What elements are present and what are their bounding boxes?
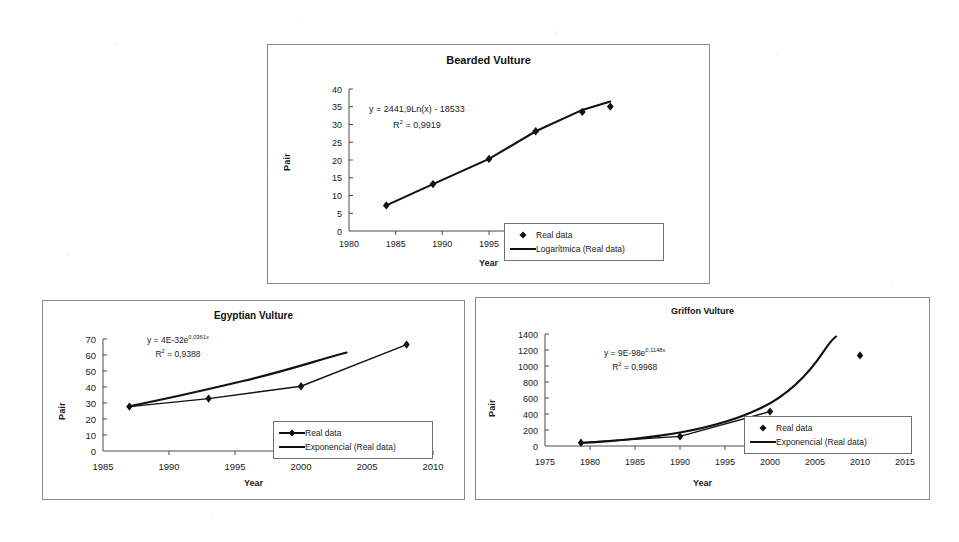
svg-text:1995: 1995 (224, 461, 245, 472)
svg-text:20: 20 (332, 156, 342, 166)
svg-text:2010: 2010 (422, 461, 443, 472)
svg-text:2005: 2005 (805, 457, 825, 467)
svg-text:800: 800 (523, 378, 538, 388)
legend-item-real-data: Real data (279, 426, 425, 440)
svg-text:5: 5 (337, 209, 342, 219)
svg-text:25: 25 (332, 138, 342, 148)
svg-text:0: 0 (533, 442, 538, 452)
svg-text:2015: 2015 (895, 457, 915, 467)
svg-text:35: 35 (332, 102, 342, 112)
svg-text:2000: 2000 (290, 461, 311, 472)
svg-text:1990: 1990 (670, 457, 690, 467)
svg-text:400: 400 (523, 410, 538, 420)
equation-bearded: y = 2441,9Ln(x) - 18533 R2 = 0,9919 (369, 103, 465, 133)
legend-griffon: Real data Exponencial (Real data) (744, 416, 912, 454)
svg-text:1990: 1990 (432, 239, 452, 249)
svg-text:10: 10 (85, 430, 96, 441)
legend-marker-icon (750, 422, 776, 434)
svg-text:1400: 1400 (518, 330, 538, 340)
svg-text:50: 50 (85, 366, 96, 377)
r-squared-value-egyptian: = 0,9388 (165, 349, 201, 359)
svg-text:1985: 1985 (386, 239, 406, 249)
chart-panel-bearded-vulture: Bearded Vulture Pair Year 40 35 30 25 20… (267, 44, 710, 284)
svg-text:1995: 1995 (715, 457, 735, 467)
svg-text:1990: 1990 (158, 461, 179, 472)
legend-item-trendline: Logarítmica (Real data) (510, 242, 656, 256)
svg-text:30: 30 (332, 120, 342, 130)
svg-text:1200: 1200 (518, 346, 538, 356)
svg-text:0: 0 (91, 446, 96, 457)
legend-marker-icon (510, 229, 536, 241)
equation-text-bearded: y = 2441,9Ln(x) - 18533 (369, 104, 465, 114)
chart-title-griffon-vulture: Griffon Vulture (476, 306, 929, 316)
chart-panel-griffon-vulture: Griffon Vulture Pair Year 1400 1200 1000… (475, 297, 930, 500)
legend-bearded: Real data Logarítmica (Real data) (504, 223, 664, 261)
svg-text:15: 15 (332, 173, 342, 183)
legend-item-trendline: Exponencial (Real data) (750, 435, 904, 449)
svg-text:0: 0 (337, 227, 342, 237)
legend-line-icon (279, 441, 305, 453)
svg-text:60: 60 (85, 350, 96, 361)
legend-label-trendline: Logarítmica (Real data) (536, 244, 625, 254)
svg-text:1975: 1975 (535, 457, 555, 467)
legend-item-real-data: Real data (510, 228, 656, 242)
equation-egyptian: y = 4E-32e0,0361x R2 = 0,9388 (147, 333, 209, 361)
svg-text:2010: 2010 (850, 457, 870, 467)
legend-item-real-data: Real data (750, 421, 904, 435)
r-squared-value-griffon: = 0,9968 (622, 362, 658, 372)
svg-text:20: 20 (85, 414, 96, 425)
svg-text:70: 70 (85, 334, 96, 345)
equation-base-egyptian: y = 4E-32e (147, 335, 188, 345)
legend-egyptian: Real data Exponencial (Real data) (273, 421, 433, 459)
svg-text:10: 10 (332, 191, 342, 201)
svg-text:1995: 1995 (479, 239, 499, 249)
legend-label-trendline: Exponencial (Real data) (776, 437, 867, 447)
equation-exponent-griffon: 0,1148x (645, 347, 665, 353)
svg-text:1000: 1000 (518, 362, 538, 372)
svg-text:600: 600 (523, 394, 538, 404)
equation-base-griffon: y = 9E-98e (604, 348, 645, 358)
chart-title-egyptian-vulture: Egyptian Vulture (43, 310, 464, 321)
r-squared-value-bearded: = 0,9919 (403, 120, 441, 130)
equation-exponent-egyptian: 0,0361x (188, 334, 209, 340)
equation-griffon: y = 9E-98e0,1148x R2 = 0,9968 (604, 346, 665, 374)
svg-text:1980: 1980 (580, 457, 600, 467)
legend-marker-line-icon (279, 427, 305, 439)
chart-panel-egyptian-vulture: Egyptian Vulture Pair Year 70 60 50 40 3… (42, 300, 465, 500)
legend-line-icon (750, 436, 776, 448)
legend-item-trendline: Exponencial (Real data) (279, 440, 425, 454)
x-axis-label-griffon: Year (476, 478, 929, 488)
svg-text:1980: 1980 (339, 239, 359, 249)
chart-title-bearded-vulture: Bearded Vulture (268, 54, 709, 66)
plot-area-griffon: 1400 1200 1000 800 600 400 200 0 (476, 320, 931, 478)
svg-text:2005: 2005 (356, 461, 377, 472)
svg-text:2000: 2000 (760, 457, 780, 467)
svg-text:40: 40 (85, 382, 96, 393)
legend-label-real-data: Real data (305, 428, 341, 438)
x-axis-label-egyptian: Year (43, 478, 464, 488)
legend-label-real-data: Real data (536, 230, 572, 240)
legend-line-icon (510, 243, 536, 255)
legend-label-trendline: Exponencial (Real data) (305, 442, 396, 452)
svg-text:40: 40 (332, 85, 342, 95)
svg-text:1985: 1985 (625, 457, 645, 467)
svg-text:1985: 1985 (92, 461, 113, 472)
plot-svg-griffon: 1400 1200 1000 800 600 400 200 0 (476, 320, 931, 478)
svg-text:200: 200 (523, 426, 538, 436)
legend-label-real-data: Real data (776, 423, 812, 433)
svg-text:30: 30 (85, 398, 96, 409)
